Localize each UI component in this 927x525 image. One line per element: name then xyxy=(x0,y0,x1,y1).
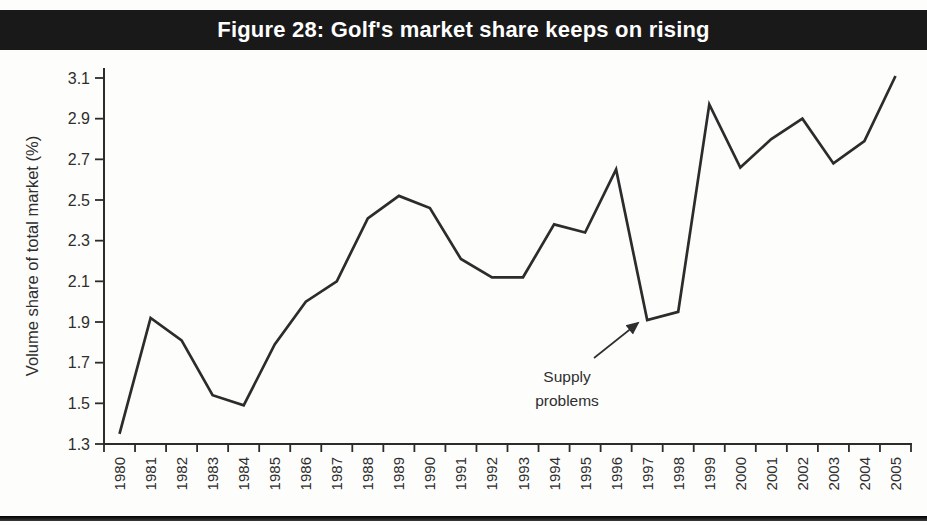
x-tick-label: 1982 xyxy=(173,457,190,490)
x-tick-label: 2004 xyxy=(856,457,873,490)
x-tick-label: 2001 xyxy=(763,457,780,490)
y-axis-title: Volume share of total market (%) xyxy=(23,136,41,376)
x-tick-label: 1990 xyxy=(421,457,438,490)
y-tick-label: 2.7 xyxy=(68,151,90,168)
x-tick-label: 1980 xyxy=(111,457,128,490)
annotation-text-line1: Supply xyxy=(543,368,591,385)
x-tick-label: 1995 xyxy=(577,457,594,490)
line-chart: 1.31.51.71.92.12.32.52.72.93.11980198119… xyxy=(0,0,927,516)
x-tick-label: 1981 xyxy=(142,457,159,490)
y-tick-label: 2.9 xyxy=(68,110,90,127)
x-tick-label: 1998 xyxy=(670,457,687,490)
figure-28-golf-market-share-chart: { "header": { "background_color": "#1919… xyxy=(0,0,927,525)
x-tick-label: 1996 xyxy=(608,457,625,490)
x-tick-label: 2003 xyxy=(825,457,842,490)
x-tick-label: 1985 xyxy=(266,457,283,490)
x-tick-label: 1994 xyxy=(546,457,563,490)
x-tick-label: 2005 xyxy=(887,457,904,490)
y-tick-label: 3.1 xyxy=(68,70,90,87)
x-tick-label: 1999 xyxy=(701,457,718,490)
x-tick-label: 2000 xyxy=(732,457,749,490)
y-tick-label: 2.5 xyxy=(68,192,90,209)
y-tick-label: 1.7 xyxy=(68,354,90,371)
figure-bottom-rule xyxy=(0,516,927,521)
x-tick-label: 1987 xyxy=(328,457,345,490)
annotation-text-line2: problems xyxy=(535,392,599,409)
annotation-supply-problems: Supply problems xyxy=(535,323,638,409)
x-tick-label: 1992 xyxy=(483,457,500,490)
y-tick-label: 1.5 xyxy=(68,395,90,412)
annotation-arrow xyxy=(594,323,638,358)
y-tick-label: 2.3 xyxy=(68,232,90,249)
market-share-series-line xyxy=(120,76,896,434)
x-tick-label: 1991 xyxy=(452,457,469,490)
x-tick-label: 1983 xyxy=(204,457,221,490)
x-tick-label: 1989 xyxy=(390,457,407,490)
x-tick-label: 1993 xyxy=(515,457,532,490)
y-tick-label: 2.1 xyxy=(68,273,90,290)
x-tick-label: 1988 xyxy=(359,457,376,490)
x-tick-label: 1986 xyxy=(297,457,314,490)
y-tick-label: 1.9 xyxy=(68,314,90,331)
y-tick-label: 1.3 xyxy=(68,436,90,453)
x-tick-label: 2002 xyxy=(794,457,811,490)
x-tick-label: 1997 xyxy=(639,457,656,490)
x-tick-label: 1984 xyxy=(235,457,252,490)
